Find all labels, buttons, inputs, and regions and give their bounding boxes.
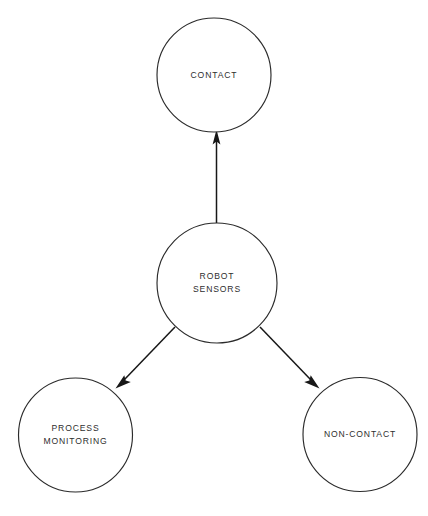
edge-sensors-to-contact [213, 130, 221, 224]
node-contact[interactable]: CONTACT [157, 18, 271, 132]
arrowhead-down-left-icon [116, 375, 131, 388]
node-non-contact[interactable]: NON-CONTACT [303, 378, 417, 492]
node-contact-label: CONTACT [191, 70, 238, 80]
edge-line-sensors-to-process-monitoring [125, 327, 176, 380]
edge-line-sensors-to-non-contact [260, 327, 311, 380]
node-non-contact-label: NON-CONTACT [324, 429, 396, 439]
diagram-svg: CONTACT ROBOT SENSORS PROCESS MONITORING… [0, 0, 428, 516]
node-robot-sensors[interactable]: ROBOT SENSORS [157, 223, 277, 343]
edge-sensors-to-non-contact [260, 327, 320, 389]
node-robot-sensors-circle[interactable] [157, 223, 277, 343]
edge-sensors-to-process-monitoring [116, 327, 176, 389]
node-process-monitoring[interactable]: PROCESS MONITORING [19, 378, 133, 492]
node-process-monitoring-label-line1: PROCESS [52, 423, 100, 433]
node-robot-sensors-label-line2: SENSORS [193, 284, 241, 294]
node-process-monitoring-label-line2: MONITORING [43, 436, 107, 446]
node-robot-sensors-label-line1: ROBOT [200, 271, 235, 281]
diagram-canvas: CONTACT ROBOT SENSORS PROCESS MONITORING… [0, 0, 428, 516]
node-process-monitoring-circle[interactable] [19, 378, 133, 492]
arrowhead-down-right-icon [304, 375, 319, 388]
